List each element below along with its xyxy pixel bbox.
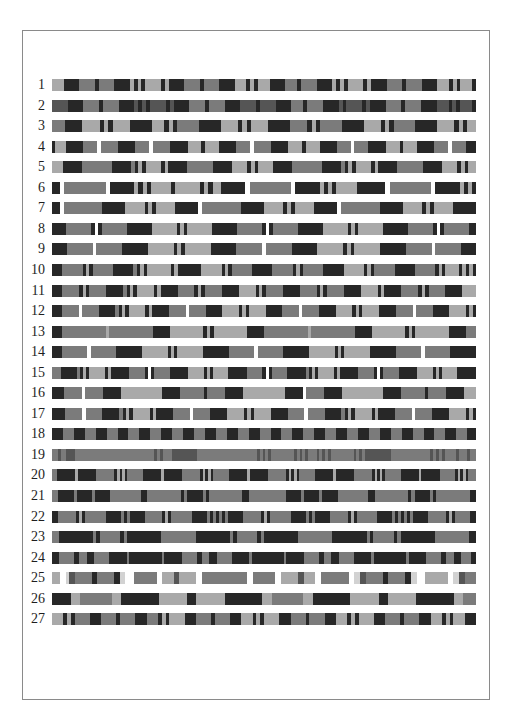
band-segment bbox=[417, 367, 433, 379]
band-segment bbox=[91, 346, 116, 358]
band-segment bbox=[428, 511, 446, 523]
band-segment bbox=[101, 613, 116, 625]
band-segment bbox=[374, 264, 395, 276]
band-segment bbox=[379, 305, 396, 317]
band-segment bbox=[322, 490, 338, 502]
band-segment bbox=[172, 428, 183, 440]
band-segment bbox=[240, 100, 256, 112]
band-segment bbox=[225, 593, 262, 605]
band-segment bbox=[130, 511, 145, 523]
barcode-bar bbox=[52, 490, 476, 502]
row-label: 26 bbox=[14, 591, 45, 607]
barcode-row: 9 bbox=[0, 243, 512, 257]
band-segment bbox=[52, 79, 64, 91]
barcode-row: 20 bbox=[0, 469, 512, 483]
row-label: 19 bbox=[14, 447, 45, 463]
band-segment bbox=[437, 100, 449, 112]
band-segment bbox=[424, 428, 434, 440]
band-segment bbox=[238, 428, 249, 440]
band-segment bbox=[187, 223, 212, 235]
band-segment bbox=[145, 511, 162, 523]
band-segment bbox=[52, 613, 63, 625]
band-segment bbox=[109, 326, 153, 338]
band-segment bbox=[374, 613, 385, 625]
band-segment bbox=[292, 243, 317, 255]
band-segment bbox=[270, 511, 291, 523]
band-segment bbox=[213, 367, 228, 379]
band-segment bbox=[62, 326, 106, 338]
band-segment bbox=[286, 552, 304, 564]
band-segment bbox=[332, 531, 367, 543]
band-segment bbox=[404, 613, 419, 625]
band-segment bbox=[318, 367, 334, 379]
band-segment bbox=[99, 305, 115, 317]
band-segment bbox=[364, 120, 381, 132]
band-segment bbox=[213, 469, 229, 481]
band-segment bbox=[468, 161, 476, 173]
band-segment bbox=[151, 182, 171, 194]
band-segment bbox=[209, 552, 217, 564]
band-segment bbox=[202, 552, 209, 564]
band-segment bbox=[85, 428, 96, 440]
band-segment bbox=[247, 367, 262, 379]
band-segment bbox=[470, 449, 476, 461]
band-segment bbox=[394, 120, 415, 132]
band-segment bbox=[52, 367, 61, 379]
band-segment bbox=[112, 593, 121, 605]
band-segment bbox=[307, 100, 323, 112]
band-segment bbox=[99, 79, 114, 91]
band-segment bbox=[383, 387, 401, 399]
band-segment bbox=[182, 469, 200, 481]
band-segment bbox=[403, 202, 422, 214]
band-segment bbox=[461, 552, 471, 564]
band-segment bbox=[445, 285, 462, 297]
band-segment bbox=[229, 469, 247, 481]
band-segment bbox=[321, 572, 349, 584]
band-segment bbox=[249, 305, 266, 317]
band-segment bbox=[419, 613, 431, 625]
band-segment bbox=[194, 428, 205, 440]
band-segment bbox=[314, 202, 337, 214]
band-segment bbox=[232, 552, 249, 564]
band-segment bbox=[426, 552, 441, 564]
band-segment bbox=[219, 79, 235, 91]
barcode-row: 17 bbox=[0, 408, 512, 422]
band-segment bbox=[460, 79, 472, 91]
band-segment bbox=[445, 264, 459, 276]
band-segment bbox=[162, 387, 180, 399]
band-segment bbox=[456, 428, 467, 440]
band-segment bbox=[435, 531, 469, 543]
band-segment bbox=[281, 572, 298, 584]
band-segment bbox=[185, 613, 196, 625]
band-segment bbox=[179, 572, 196, 584]
band-segment bbox=[52, 305, 62, 317]
band-segment bbox=[390, 182, 431, 194]
band-segment bbox=[467, 428, 476, 440]
band-segment bbox=[147, 264, 171, 276]
band-segment bbox=[317, 243, 343, 255]
band-segment bbox=[460, 100, 472, 112]
band-segment bbox=[133, 408, 150, 420]
band-segment bbox=[437, 120, 454, 132]
band-segment bbox=[466, 141, 476, 153]
band-segment bbox=[272, 367, 287, 379]
band-segment bbox=[416, 305, 433, 317]
band-segment bbox=[415, 120, 437, 132]
band-segment bbox=[66, 223, 91, 235]
band-segment bbox=[435, 182, 460, 194]
band-segment bbox=[187, 593, 196, 605]
row-label: 17 bbox=[14, 406, 45, 422]
band-segment bbox=[413, 511, 428, 523]
band-segment bbox=[446, 552, 454, 564]
band-segment bbox=[337, 141, 351, 153]
band-segment bbox=[306, 387, 324, 399]
band-segment bbox=[213, 182, 221, 194]
band-segment bbox=[187, 490, 203, 502]
band-segment bbox=[221, 182, 245, 194]
band-segment bbox=[199, 120, 221, 132]
band-segment bbox=[303, 264, 323, 276]
band-segment bbox=[202, 202, 241, 214]
band-segment bbox=[472, 182, 476, 194]
band-segment bbox=[192, 511, 207, 523]
band-segment bbox=[162, 572, 174, 584]
